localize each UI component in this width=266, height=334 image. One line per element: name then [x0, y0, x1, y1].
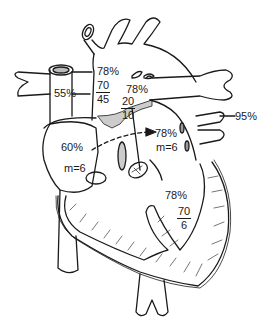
aorta-saturation-label: 78% — [97, 66, 119, 77]
ascending-aorta — [92, 54, 94, 120]
heart-drawing — [0, 0, 266, 334]
pulmonary-artery-pressure-label: 20 10 — [121, 96, 135, 121]
right-atrium-saturation-label: 60% — [61, 142, 83, 153]
ventricle-diastolic: 6 — [177, 219, 191, 231]
pulmonary-artery-saturation-label: 78% — [126, 84, 148, 95]
mitral-valve — [126, 159, 150, 181]
pa-diastolic: 10 — [121, 109, 135, 121]
ventricle-saturation-label: 78% — [165, 190, 187, 201]
pulmonary-vein-saturation-label: 95% — [235, 111, 257, 122]
pulmonary-artery — [146, 70, 232, 100]
ventricle-pressure-label: 70 6 — [177, 206, 191, 231]
left-atrium-saturation-label: 78% — [155, 128, 177, 139]
descending-aorta — [136, 274, 168, 316]
pa-systolic: 20 — [121, 96, 135, 109]
aorta-pressure-label: 70 45 — [96, 80, 110, 105]
left-atrium-mean-label: m=6 — [156, 142, 178, 153]
aorta-systolic: 70 — [96, 80, 110, 93]
svc-saturation-label: 55% — [54, 88, 76, 99]
right-atrium-mean-label: m=6 — [64, 163, 86, 174]
tricuspid-valve — [86, 172, 106, 184]
ventricle-outer — [58, 162, 229, 286]
heart-diagram: 55% 78% 70 45 78% 20 10 95% 60% m=6 78% … — [0, 0, 266, 334]
aorta-diastolic: 45 — [96, 93, 110, 105]
left-head-vessel-opening — [80, 23, 96, 42]
pulmonary-veins — [196, 112, 224, 144]
ventricle-systolic: 70 — [177, 206, 191, 219]
right-atrium — [43, 122, 98, 193]
